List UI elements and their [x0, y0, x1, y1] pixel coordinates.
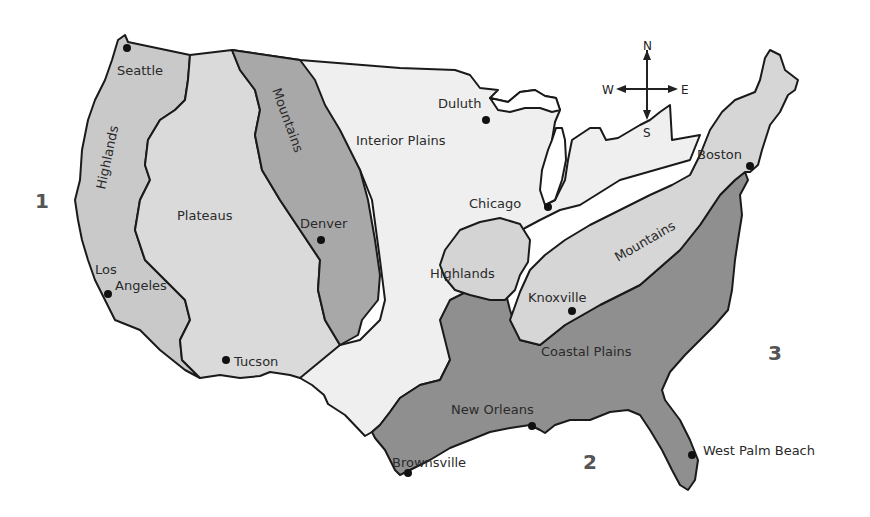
city-dot-west-palm-beach — [688, 451, 696, 459]
arrow-east-icon — [668, 85, 678, 93]
city-label-boston: Boston — [697, 147, 742, 162]
compass-label-n: N — [643, 39, 652, 53]
city-dot-los-angeles — [104, 290, 112, 298]
label-plateaus: Plateaus — [177, 208, 233, 223]
city-dot-new-orleans — [528, 422, 536, 430]
city-dot-brownsville — [404, 469, 412, 477]
city-dot-boston — [746, 162, 754, 170]
us-physical-regions-map: Highlands Plateaus Mountains Interior Pl… — [0, 0, 870, 517]
city-dot-tucson — [222, 356, 230, 364]
city-dot-seattle — [123, 44, 131, 52]
city-label-seattle: Seattle — [117, 63, 163, 78]
compass-label-e: E — [681, 83, 689, 97]
city-label-denver: Denver — [300, 216, 348, 231]
city-label-brownsville: Brownsville — [392, 455, 466, 470]
compass-label-w: W — [602, 83, 614, 97]
arrow-south-icon — [643, 110, 651, 120]
lake-superior-edge — [490, 90, 560, 112]
city-dot-knoxville — [568, 307, 576, 315]
label-highlands-central: Highlands — [430, 266, 495, 281]
city-label-los: Los — [95, 262, 117, 277]
label-coastal-plains: Coastal Plains — [541, 344, 632, 359]
city-label-chicago: Chicago — [469, 196, 521, 211]
city-label-west-palm-beach: West Palm Beach — [703, 443, 815, 458]
water-marker-3: 3 — [768, 341, 782, 365]
city-label-knoxville: Knoxville — [528, 290, 587, 305]
city-dot-chicago — [544, 203, 552, 211]
city-label-duluth: Duluth — [438, 96, 481, 111]
arrow-west-icon — [616, 85, 626, 93]
city-label-angeles: Angeles — [115, 278, 167, 293]
city-dot-denver — [317, 236, 325, 244]
label-interior-plains: Interior Plains — [356, 133, 446, 148]
city-label-tucson: Tucson — [233, 354, 278, 369]
water-marker-1: 1 — [35, 189, 49, 213]
city-label-new-orleans: New Orleans — [451, 402, 534, 417]
water-marker-2: 2 — [583, 450, 597, 474]
city-dot-duluth — [482, 116, 490, 124]
compass-label-s: S — [643, 126, 651, 140]
